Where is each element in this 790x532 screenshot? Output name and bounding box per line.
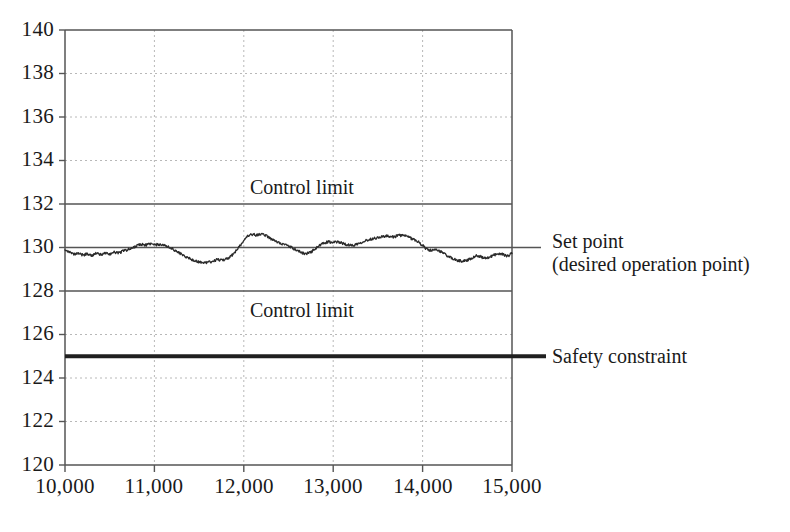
chart-figure: 140 138 136 134 132 130 128 126 124 122 …: [0, 0, 790, 532]
process-variable-series: [65, 233, 512, 263]
plot-area: [0, 0, 790, 532]
reference-lines: [65, 204, 546, 356]
